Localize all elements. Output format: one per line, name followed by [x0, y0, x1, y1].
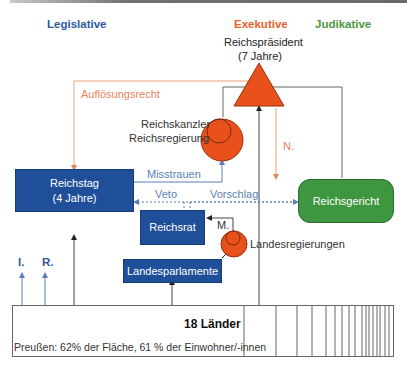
government-label: Reichsregierung: [129, 132, 209, 145]
m-label: M.: [217, 219, 229, 232]
n-label: N.: [283, 140, 294, 153]
president-triangle: [234, 63, 284, 106]
landesparlamente-box: Landesparlamente: [123, 259, 222, 283]
laender-title: 18 Länder: [184, 318, 241, 331]
r-label: R.: [42, 256, 54, 269]
veto-label: Veto: [155, 188, 177, 201]
aufloesungsrecht-label: Auflösungsrecht: [81, 88, 160, 101]
misstrauen-label: Misstrauen: [147, 168, 201, 181]
reichstag-name: Reichstag: [50, 176, 99, 191]
president-term: (7 Jahre): [238, 50, 282, 63]
prussia-note: Preußen: 62% der Fläche, 61 % der Einwoh…: [14, 341, 266, 354]
reichsrat-name: Reichsrat: [149, 220, 195, 235]
reichstag-term: (4 Jahre): [52, 191, 96, 206]
landesparlamente-name: Landesparlamente: [127, 264, 218, 279]
reichsgericht-box: Reichsgericht: [298, 179, 394, 223]
reichstag-box: Reichstag (4 Jahre): [15, 169, 134, 212]
chancellor-label: Reichskanzler: [141, 118, 210, 131]
president-label: Reichspräsident: [224, 36, 303, 49]
executive-header: Exekutive: [234, 18, 288, 31]
judicative-header: Judikative: [315, 18, 371, 31]
legislative-header: Legislative: [47, 18, 106, 31]
reichsrat-box: Reichsrat: [140, 210, 205, 245]
landesregierung-circle: [221, 231, 247, 257]
reichsgericht-name: Reichsgericht: [313, 195, 380, 207]
landesregierungen-label: Landesregierungen: [250, 238, 345, 251]
vorschlag-label: Vorschlag: [210, 188, 258, 201]
i-label: I.: [18, 256, 24, 269]
